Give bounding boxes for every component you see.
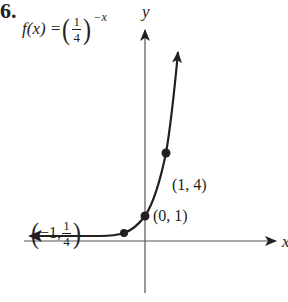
graph-canvas <box>0 0 288 302</box>
left-paren: ( <box>31 218 39 248</box>
point-1-4 <box>162 149 171 158</box>
right-paren: ) <box>73 218 81 248</box>
label-point-0-1: (0, 1) <box>153 207 188 225</box>
label-prefix: −1, <box>40 224 61 242</box>
label-point-1-4: (1, 4) <box>172 176 207 194</box>
label-numerator: 1 <box>63 219 70 232</box>
point-neg1-quarter <box>120 229 128 237</box>
label-denominator: 4 <box>63 235 70 248</box>
y-axis-label: y <box>142 2 150 22</box>
label-point-neg1-quarter: ( −1, 1 4 ) <box>30 218 82 248</box>
x-axis-label: x <box>282 232 288 252</box>
point-0-1 <box>141 212 150 221</box>
label-fraction: 1 4 <box>62 219 71 248</box>
